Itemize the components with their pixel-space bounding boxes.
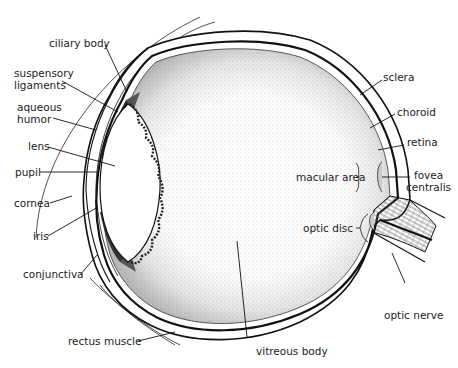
label-conjunctiva: conjunctiva [23, 268, 84, 280]
label-rectus-muscle: rectus muscle [68, 335, 141, 347]
label-iris: iris [33, 230, 49, 242]
label-choroid: choroid [397, 106, 436, 118]
label-optic-nerve: optic nerve [384, 309, 443, 321]
label-sclera: sclera [383, 71, 414, 83]
label-suspensory-ligaments-line2: ligaments [14, 79, 66, 92]
label-pupil: pupil [15, 166, 41, 178]
label-lens: lens [28, 140, 50, 152]
label-vitreous-body: vitreous body [256, 345, 328, 357]
label-optic-disc: optic disc [303, 222, 353, 234]
label-fovea-centralis-line2: centralis [406, 181, 451, 194]
label-fovea-centralis-line1: fovea [414, 169, 443, 182]
label-aqueous-humor-line1: aqueous [17, 101, 62, 114]
eye-diagram: ciliary body suspensory ligaments aqueou… [0, 0, 458, 368]
label-suspensory-ligaments-line1: suspensory [14, 67, 74, 80]
label-cornea: cornea [14, 197, 50, 209]
label-retina: retina [407, 136, 438, 148]
optic-nerve [372, 196, 445, 262]
label-macular-area: macular area [296, 171, 366, 183]
label-aqueous-humor-line2: humor [17, 113, 51, 126]
label-ciliary-body: ciliary body [49, 37, 110, 49]
